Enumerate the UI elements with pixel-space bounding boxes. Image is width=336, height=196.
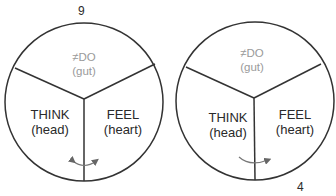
- diagram-canvas: [0, 0, 336, 196]
- curved-arrow-icon: [239, 157, 268, 163]
- think-subtitle: (head): [200, 125, 256, 140]
- gut-subtitle: (gut): [222, 60, 282, 74]
- gut-title: ≠DO: [222, 46, 282, 60]
- heart-center-label: FEEL (heart): [270, 107, 320, 137]
- feel-title: FEEL: [98, 107, 148, 122]
- feel-subtitle: (heart): [98, 122, 148, 137]
- type-number: 9: [78, 4, 85, 18]
- think-subtitle: (head): [22, 122, 78, 137]
- think-title: THINK: [200, 110, 256, 125]
- head-center-label: THINK (head): [22, 107, 78, 137]
- heart-center-label: FEEL (heart): [98, 107, 148, 137]
- feel-subtitle: (heart): [270, 122, 320, 137]
- think-title: THINK: [22, 107, 78, 122]
- type-number: 4: [297, 180, 304, 194]
- gut-center-label: ≠DO (gut): [54, 50, 114, 78]
- gut-center-label: ≠DO (gut): [222, 46, 282, 74]
- gut-title: ≠DO: [54, 50, 114, 64]
- head-center-label: THINK (head): [200, 110, 256, 140]
- feel-title: FEEL: [270, 107, 320, 122]
- enneagram-circle-9: [5, 23, 163, 181]
- gut-subtitle: (gut): [54, 64, 114, 78]
